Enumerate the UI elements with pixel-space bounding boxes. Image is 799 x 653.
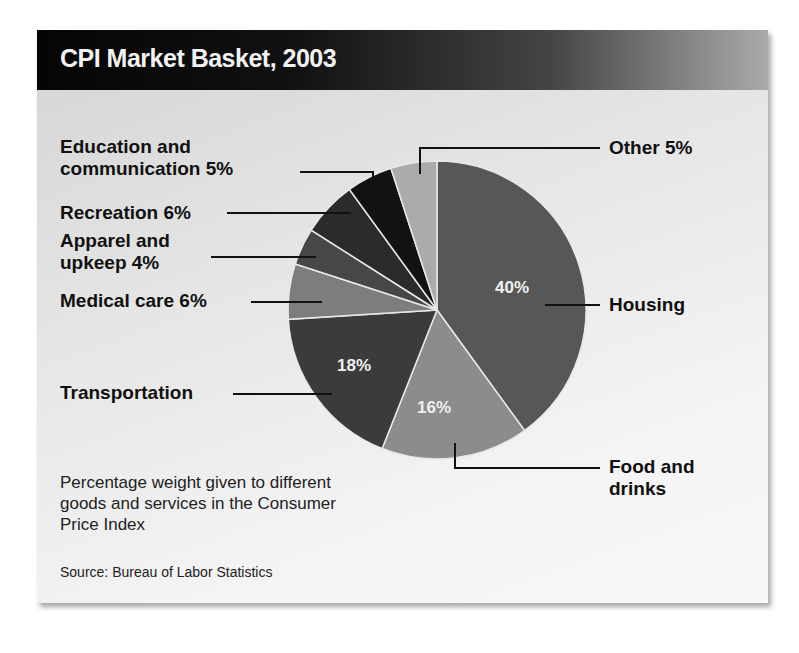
label-education: Education and communication 5%: [60, 136, 233, 180]
chart-caption: Percentage weight given to different goo…: [60, 472, 360, 535]
label-education-line1: Education and: [60, 136, 233, 158]
label-apparel-line2: upkeep 4%: [60, 252, 170, 274]
label-education-line2: communication 5%: [60, 158, 233, 180]
label-food-line2: drinks: [609, 478, 694, 500]
label-transportation: Transportation: [60, 382, 193, 404]
label-other: Other 5%: [609, 137, 692, 159]
label-medical: Medical care 6%: [60, 290, 207, 312]
chart-source: Source: Bureau of Labor Statistics: [60, 564, 272, 580]
label-food: Food and drinks: [609, 456, 694, 500]
chart-card: CPI Market Basket, 2003 40% 18% 16%: [37, 30, 768, 603]
label-food-line1: Food and: [609, 456, 694, 478]
transport-pct: 18%: [337, 356, 371, 375]
label-housing: Housing: [609, 294, 685, 316]
housing-pct: 40%: [495, 278, 529, 297]
label-recreation: Recreation 6%: [60, 202, 191, 224]
food-pct: 16%: [417, 398, 451, 417]
label-apparel-line1: Apparel and: [60, 230, 170, 252]
label-apparel: Apparel and upkeep 4%: [60, 230, 170, 274]
